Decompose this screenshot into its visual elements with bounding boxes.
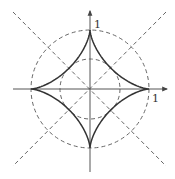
x-axis-label: 1 <box>152 92 159 105</box>
y-axis-label: 1 <box>94 18 101 31</box>
astroid-diagram: 1 1 <box>0 0 175 179</box>
diagram-canvas: 1 1 <box>0 0 175 179</box>
